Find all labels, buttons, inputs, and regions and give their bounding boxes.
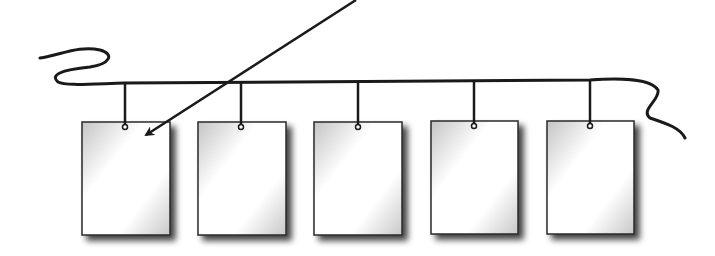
arrow-icon (146, 0, 356, 135)
hanging-card (82, 83, 170, 235)
blank-card (314, 122, 402, 235)
blank-card (431, 121, 518, 234)
card-hole-icon (239, 125, 244, 130)
card-hole-icon (472, 124, 477, 129)
hanging-cards-diagram (0, 0, 715, 256)
card-hole-icon (588, 124, 593, 129)
hanging-card (314, 81, 402, 235)
blank-card (198, 122, 286, 235)
card-hole-icon (356, 125, 361, 130)
blank-card (547, 121, 634, 234)
hanging-card (198, 82, 286, 235)
card-hole-icon (123, 125, 128, 130)
hanging-card (547, 80, 634, 234)
hanging-card (431, 81, 518, 234)
blank-card (82, 122, 170, 235)
cards-group (82, 80, 634, 235)
